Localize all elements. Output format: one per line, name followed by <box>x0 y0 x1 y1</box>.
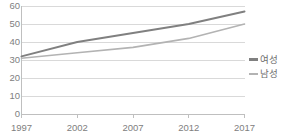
x-tick-label: 2007 <box>113 123 153 133</box>
gridlines <box>22 6 245 114</box>
legend-label-series-1: 남성 <box>260 69 278 79</box>
legend-swatch-series-1 <box>249 73 258 75</box>
x-tick-label: 2017 <box>225 123 265 133</box>
chart-legend: 여성 남성 <box>249 53 288 81</box>
chart-plot-area <box>0 0 288 140</box>
y-tick-label: 30 <box>0 55 20 65</box>
y-tick-label: 60 <box>0 1 20 11</box>
series-line-1 <box>22 24 245 58</box>
line-chart: 0102030405060 19972002200720122017 여성 남성 <box>0 0 288 140</box>
x-tick-label: 2002 <box>57 123 97 133</box>
y-tick-label: 0 <box>0 109 20 119</box>
legend-label-series-0: 여성 <box>260 55 278 65</box>
y-tick-label: 40 <box>0 37 20 47</box>
x-tick-label: 1997 <box>2 123 42 133</box>
series-line-0 <box>22 11 245 56</box>
legend-item-series-0: 여성 <box>249 53 288 66</box>
y-tick-label: 50 <box>0 19 20 29</box>
legend-swatch-series-0 <box>249 58 258 61</box>
x-tick-label: 2012 <box>169 123 209 133</box>
legend-item-series-1: 남성 <box>249 67 288 80</box>
x-axis-tick-marks <box>22 114 245 118</box>
y-tick-label: 10 <box>0 91 20 101</box>
y-tick-label: 20 <box>0 73 20 83</box>
data-series-lines <box>22 11 245 58</box>
